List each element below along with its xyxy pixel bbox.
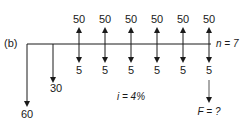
disbursement-label-p7: 5: [206, 65, 212, 76]
disbursement-label-p6: 5: [180, 65, 186, 76]
receipt-label-p5: 50: [151, 14, 163, 25]
disbursement-label-p0: 60: [21, 109, 33, 120]
receipt-label-p6: 50: [177, 14, 189, 25]
disbursement-label-p5: 5: [154, 65, 160, 76]
receipt-label-p2: 50: [73, 14, 85, 25]
receipt-label-p7: 50: [203, 14, 215, 25]
interest-label: i = 4%: [117, 92, 145, 102]
disbursement-label-p2: 5: [76, 65, 82, 76]
panel-label: (b): [4, 38, 17, 49]
disbursement-label-p4: 5: [128, 65, 134, 76]
receipt-label-p3: 50: [99, 14, 111, 25]
disbursement-label-p3: 5: [102, 65, 108, 76]
arrows-periods-2-7: [79, 30, 209, 60]
receipt-label-p4: 50: [125, 14, 137, 25]
future-value-label: F = ?: [198, 107, 221, 117]
disbursement-label-p1: 30: [50, 83, 62, 94]
n-label: n = 7: [216, 39, 239, 49]
